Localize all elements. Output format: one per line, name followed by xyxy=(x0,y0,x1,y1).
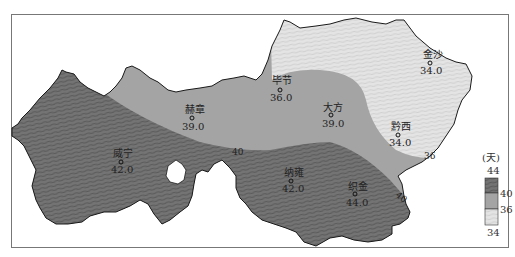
legend-tick-44: 44 xyxy=(487,165,500,176)
legend-swatch-34-36 xyxy=(485,209,498,225)
legend-unit: (天) xyxy=(482,152,500,163)
map-canvas: 金沙 34.0 毕节 36.0 赫章 39.0 大方 39.0 黔西 34.0 … xyxy=(0,0,515,257)
station-name: 威宁 xyxy=(113,147,133,159)
legend-swatch-36-40 xyxy=(485,193,498,209)
legend-tick-36: 36 xyxy=(500,204,513,215)
station-name: 黔西 xyxy=(391,120,411,132)
station-name: 织金 xyxy=(348,180,368,192)
station-name: 毕节 xyxy=(272,74,292,86)
contour-label-36: 36 xyxy=(424,151,436,161)
station-name: 赫章 xyxy=(185,103,205,115)
legend: (天) 44 40 36 34 xyxy=(482,152,513,238)
station-name: 大方 xyxy=(323,101,343,113)
station-name: 纳雍 xyxy=(284,166,304,178)
station-value: 34.0 xyxy=(420,65,442,76)
station-value: 34.0 xyxy=(389,137,411,148)
contour-label-40-west: 40 xyxy=(232,147,244,157)
station-value: 44.0 xyxy=(346,197,368,208)
station-value: 39.0 xyxy=(322,118,344,129)
station-value: 42.0 xyxy=(282,183,304,194)
map-fill-layers xyxy=(0,0,515,257)
station-value: 42.0 xyxy=(111,164,133,175)
legend-swatch-40-44 xyxy=(485,178,498,193)
legend-tick-34: 34 xyxy=(487,227,500,238)
legend-tick-40: 40 xyxy=(500,188,513,199)
station-value: 36.0 xyxy=(270,92,292,103)
station-value: 39.0 xyxy=(182,121,204,132)
station-name: 金沙 xyxy=(423,48,443,60)
